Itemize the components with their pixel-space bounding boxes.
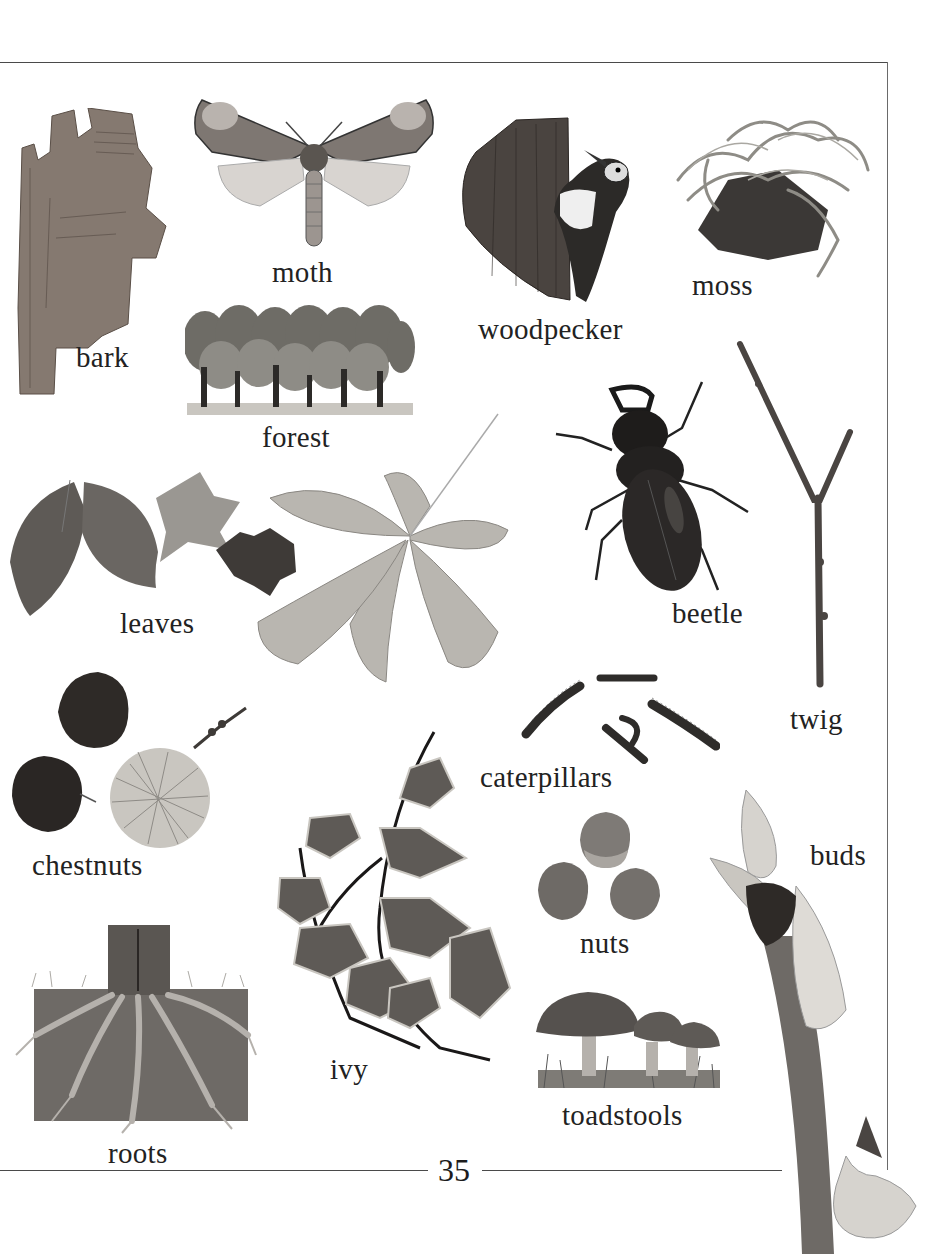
beetle-illustration xyxy=(552,380,752,610)
label-buds: buds xyxy=(810,838,866,872)
leaves-illustration xyxy=(8,412,524,702)
moth-illustration xyxy=(192,94,436,250)
label-bark: bark xyxy=(76,340,129,374)
label-nuts: nuts xyxy=(580,926,630,960)
caterpillars-illustration xyxy=(520,664,720,764)
label-chestnuts: chestnuts xyxy=(32,848,143,882)
top-border-rule xyxy=(0,62,888,63)
label-ivy: ivy xyxy=(330,1052,368,1086)
label-twig: twig xyxy=(790,702,843,736)
moss-illustration xyxy=(668,100,878,278)
woodpecker-illustration xyxy=(456,116,640,306)
twig-illustration xyxy=(730,340,860,690)
forest-illustration xyxy=(185,305,415,417)
label-moss: moss xyxy=(692,268,753,302)
ivy-illustration xyxy=(270,728,514,1064)
footer-rule-left xyxy=(0,1170,428,1171)
label-roots: roots xyxy=(108,1136,168,1170)
toadstools-illustration xyxy=(534,990,722,1090)
label-leaves: leaves xyxy=(120,606,194,640)
label-moth: moth xyxy=(272,255,333,289)
chestnuts-illustration xyxy=(8,668,248,864)
page-number: 35 xyxy=(438,1150,470,1190)
roots-illustration xyxy=(12,925,258,1135)
label-toadstools: toadstools xyxy=(562,1098,683,1132)
nuts-illustration xyxy=(536,810,662,926)
label-woodpecker: woodpecker xyxy=(478,312,623,346)
